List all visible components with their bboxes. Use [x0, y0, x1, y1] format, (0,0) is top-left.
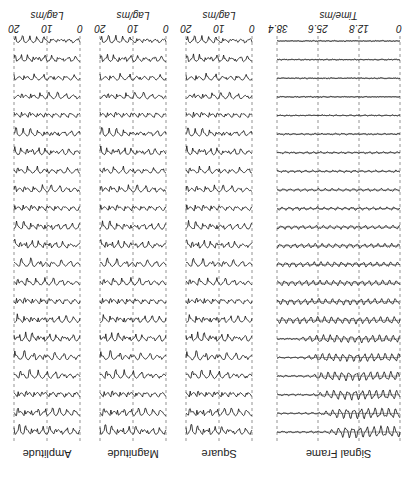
magnitude-traces: [100, 0, 166, 477]
panel-magnitude: Magnitude 0 10 20 Lag/ms: [100, 0, 166, 477]
tick-label: 20: [8, 23, 19, 34]
panel-amplitude: Amplitude 0 10 20 Lag/ms: [14, 0, 80, 477]
tick-label: 10: [127, 23, 138, 34]
tick-label: 25.6: [308, 23, 327, 34]
x-axis-label: Lag/ms: [176, 10, 262, 21]
tick-label: 10: [213, 23, 224, 34]
tick-label: 12.8: [349, 23, 368, 34]
figure: Signal Frame 0 12.8 25.6 38.4 Time/ms Sq…: [0, 0, 419, 477]
square-traces: [186, 0, 252, 477]
tick-label: 20: [94, 23, 105, 34]
tick-label: 0: [163, 23, 169, 34]
panel-square: Square 0 10 20 Lag/ms: [186, 0, 252, 477]
panel-signal-frame: Signal Frame 0 12.8 25.6 38.4 Time/ms: [277, 0, 400, 477]
tick-label: 38.4: [268, 23, 287, 34]
tick-label: 10: [41, 23, 52, 34]
tick-label: 0: [249, 23, 255, 34]
x-axis-label: Time/ms: [277, 10, 400, 21]
tick-label: 20: [180, 23, 191, 34]
x-axis-label: Lag/ms: [90, 10, 176, 21]
amplitude-traces: [14, 0, 80, 477]
x-axis-label: Lag/ms: [4, 10, 90, 21]
signal-frame-traces: [277, 0, 400, 477]
tick-label: 0: [396, 23, 402, 34]
tick-label: 0: [77, 23, 83, 34]
